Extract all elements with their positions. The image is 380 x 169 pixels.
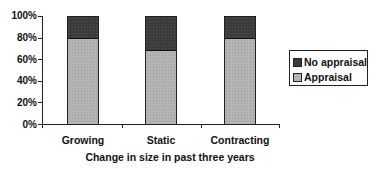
x-tick xyxy=(122,124,123,128)
bar-segment-no-appraisal xyxy=(146,17,176,51)
x-category-label: Contracting xyxy=(200,134,280,146)
x-category-label: Growing xyxy=(43,134,123,146)
legend: No appraisal Appraisal xyxy=(289,50,368,86)
legend-label: No appraisal xyxy=(304,56,367,68)
y-tick xyxy=(38,81,42,82)
y-tick-label: 0% xyxy=(23,120,37,130)
y-tick xyxy=(38,59,42,60)
y-tick xyxy=(38,16,42,17)
x-tick xyxy=(201,124,202,128)
x-axis-title: Change in size in past three years xyxy=(80,151,260,163)
x-tick xyxy=(279,124,280,128)
legend-swatch-light xyxy=(293,73,302,82)
y-tick xyxy=(38,102,42,103)
stacked-bar-chart: 100% 80% 60% 40% 20% 0% Growing Static C… xyxy=(0,0,380,169)
y-tick-label: 80% xyxy=(17,33,37,43)
bar-segment-appraisal xyxy=(225,39,255,124)
legend-item-no-appraisal: No appraisal xyxy=(293,56,367,68)
legend-swatch-dark xyxy=(293,58,302,67)
bar-segment-appraisal xyxy=(146,51,176,124)
x-category-label: Static xyxy=(121,134,201,146)
y-tick xyxy=(38,38,42,39)
y-tick-label: 20% xyxy=(17,98,37,108)
y-tick-label: 60% xyxy=(17,55,37,65)
y-tick-label: 100% xyxy=(11,11,37,21)
legend-item-appraisal: Appraisal xyxy=(293,71,352,83)
bar-growing xyxy=(67,16,99,125)
bar-segment-appraisal xyxy=(68,39,98,124)
legend-label: Appraisal xyxy=(304,71,352,83)
bar-segment-no-appraisal xyxy=(225,17,255,39)
bar-segment-no-appraisal xyxy=(68,17,98,39)
y-tick-label: 40% xyxy=(17,76,37,86)
x-tick xyxy=(42,124,43,128)
bar-static xyxy=(145,16,177,125)
bar-contracting xyxy=(224,16,256,125)
y-axis xyxy=(42,16,43,125)
